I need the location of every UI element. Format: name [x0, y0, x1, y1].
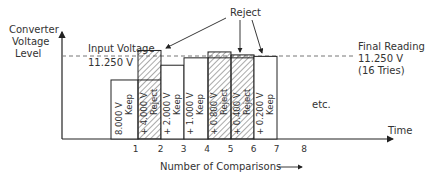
sar-converter-diagram: Converter Voltage Level Input Voltage 11…	[0, 0, 431, 177]
tick-label-5: 5	[228, 144, 234, 154]
tick-label-1: 1	[133, 144, 139, 154]
tick-label-2: 2	[158, 144, 164, 154]
bar-step-label-3: + 2.000 V	[162, 92, 172, 135]
bar-decision-label-7: Keep	[265, 94, 275, 115]
bar-step-label-7: + 0.200 V	[255, 92, 265, 135]
reject-arrow-6	[252, 20, 262, 53]
bar-step-label-6: + 0.400 V	[232, 92, 242, 135]
bar-step-label-5: + 0.800 V	[209, 92, 219, 135]
final-reading-title: Final Reading	[358, 41, 425, 52]
tick-label-6: 6	[251, 144, 257, 154]
final-reading-tries: (16 Tries)	[358, 65, 405, 76]
reject-callout-label: Reject	[230, 7, 261, 18]
y-axis-label-line-3: Level	[15, 48, 41, 59]
final-reading-value: 11.250 V	[358, 53, 403, 64]
etc-label: etc.	[312, 99, 331, 110]
x-axis-label: Time	[387, 125, 412, 136]
bar-step-label-4: + 1.000 V	[185, 92, 195, 135]
bar-decision-label-4: Keep	[195, 94, 205, 115]
y-axis-label-line-2: Voltage	[12, 36, 50, 47]
tick-label-4: 4	[204, 144, 210, 154]
bar-decision-label-1: Keep	[124, 94, 134, 115]
x-caption: Number of Comparisons	[160, 161, 281, 172]
bar-step-label-2: + 4.000 V	[139, 92, 149, 135]
input-voltage-value: 11.250 V	[88, 57, 133, 68]
y-axis-label-line-1: Converter	[9, 24, 60, 35]
comparison-bars: 8.000 VKeep1+ 4.000 VReject2+ 2.000 VKee…	[111, 50, 279, 154]
bar-step-label-1: 8.000 V	[114, 102, 124, 135]
bar-decision-label-2: Reject	[149, 88, 159, 115]
bar-decision-label-3: Keep	[172, 94, 182, 115]
bar-decision-label-6: Reject	[242, 88, 252, 115]
tick-label-8: 8	[301, 144, 307, 154]
bar-decision-label-5: Reject	[219, 88, 229, 115]
reject-arrow-2	[166, 18, 226, 48]
tick-label-3: 3	[181, 144, 187, 154]
tick-label-7: 7	[274, 144, 280, 154]
